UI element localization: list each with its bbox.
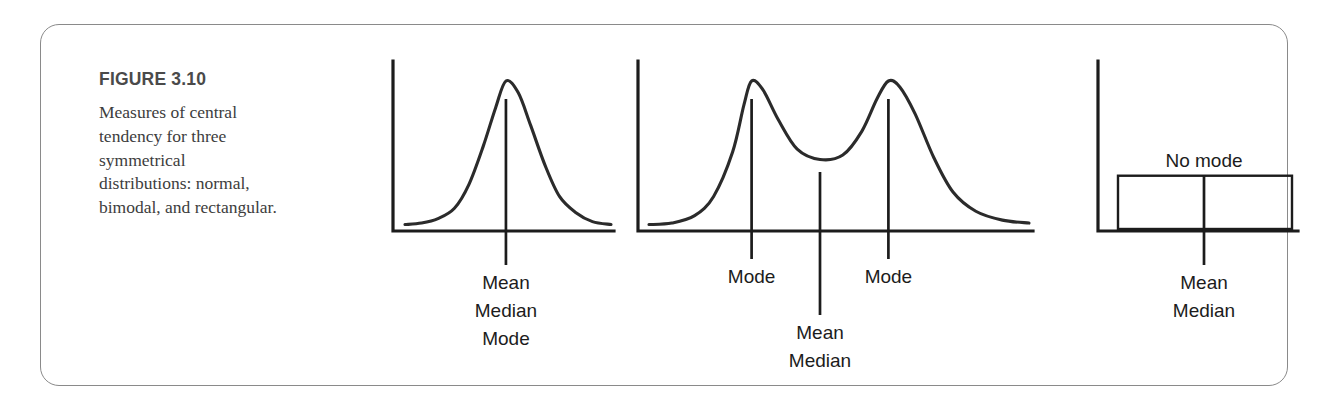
figure-caption-block: FIGURE 3.10 Measures of central tendency…	[99, 69, 279, 220]
chart-bimodal-distribution: Mode Mode Mean Median	[601, 37, 1021, 367]
label-mode-left-bimodal: Mode	[728, 266, 776, 287]
label-mean-bimodal: Mean	[796, 322, 844, 343]
label-mean-normal: Mean	[482, 272, 530, 293]
axis-lines-bimodal	[638, 61, 1033, 231]
label-mean-rectangular: Mean	[1180, 272, 1228, 293]
curve-bimodal	[649, 80, 1029, 224]
figure-caption-text: Measures of central tendency for three s…	[99, 101, 279, 220]
chart-rectangular-distribution: No mode Mean Median	[1021, 37, 1311, 337]
label-mode-right-bimodal: Mode	[865, 266, 913, 287]
figure-border: FIGURE 3.10 Measures of central tendency…	[40, 24, 1288, 386]
figure-number-label: FIGURE 3.10	[99, 69, 279, 90]
axis-lines-rectangular	[1098, 61, 1298, 231]
curve-normal	[405, 80, 611, 224]
chart-normal-distribution: Mean Median Mode	[353, 37, 603, 337]
label-median-normal: Median	[475, 300, 537, 321]
label-mode-normal: Mode	[482, 328, 530, 349]
label-median-bimodal: Median	[789, 350, 851, 371]
label-no-mode-rectangular: No mode	[1165, 150, 1242, 171]
label-median-rectangular: Median	[1173, 300, 1235, 321]
